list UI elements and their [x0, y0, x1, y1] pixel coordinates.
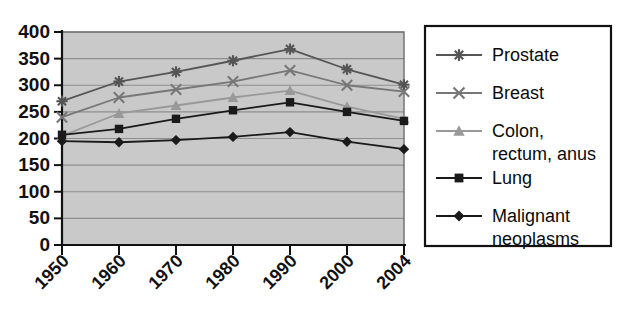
y-tick-label: 350: [18, 48, 50, 69]
legend-label: Colon,: [492, 121, 544, 141]
marker-asterisk: [341, 64, 352, 75]
y-tick-label: 200: [18, 128, 50, 149]
chart-svg-canvas: 400350300250200150100500 195019601970198…: [0, 0, 624, 316]
marker-square: [400, 117, 408, 125]
x-tick-label: 2004: [372, 251, 414, 293]
marker-square: [343, 108, 351, 116]
y-tick-label: 50: [29, 207, 50, 228]
marker-asterisk: [113, 76, 124, 87]
x-tick-label: 1990: [258, 251, 300, 293]
legend-label: Malignant: [492, 206, 570, 226]
legend-label: Prostate: [492, 45, 559, 65]
x-tick-label: 1980: [201, 251, 243, 293]
marker-square: [455, 174, 464, 183]
y-tick-label: 150: [18, 154, 50, 175]
y-tick-label: 0: [39, 234, 50, 255]
y-axis-ticks: 400350300250200150100500: [18, 21, 62, 255]
marker-square: [286, 98, 294, 106]
marker-asterisk: [284, 43, 295, 54]
x-axis-ticks: 1950196019701980199020002004: [30, 245, 414, 293]
marker-square: [115, 125, 123, 133]
y-tick-label: 300: [18, 74, 50, 95]
x-tick-label: 2000: [315, 251, 357, 293]
marker-asterisk: [227, 55, 238, 66]
y-tick-label: 400: [18, 21, 50, 42]
x-tick-label: 1950: [30, 251, 72, 293]
x-tick-label: 1960: [87, 251, 129, 293]
legend-label-line2: neoplasms: [492, 229, 579, 249]
legend-label-line2: rectum, anus: [492, 144, 596, 164]
legend-label: Breast: [492, 83, 544, 103]
y-tick-label: 250: [18, 101, 50, 122]
y-tick-label: 100: [18, 181, 50, 202]
marker-square: [229, 106, 237, 114]
line-chart-figure: 400350300250200150100500 195019601970198…: [0, 0, 624, 316]
marker-asterisk: [453, 49, 465, 61]
marker-asterisk: [170, 66, 181, 77]
legend-label: Lung: [492, 168, 532, 188]
marker-asterisk: [56, 96, 67, 107]
x-tick-label: 1970: [144, 251, 186, 293]
marker-square: [172, 115, 180, 123]
